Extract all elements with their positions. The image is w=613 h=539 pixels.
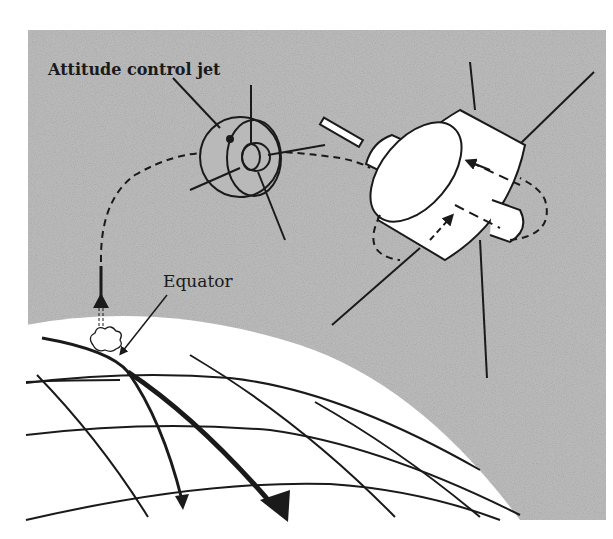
label-equator: Equator <box>163 271 233 291</box>
label-attitude-control-jet: Attitude control jet <box>47 60 221 79</box>
satellite-orbit-diagram: Attitude control jet Equator <box>0 0 613 539</box>
